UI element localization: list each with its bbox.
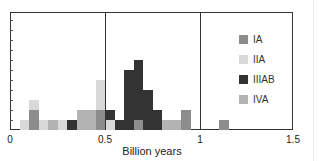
gridline-1 bbox=[200, 12, 201, 130]
x-tick-1-5: 1.5 bbox=[286, 134, 300, 145]
legend-swatch-iia bbox=[239, 55, 248, 64]
y-tick bbox=[10, 120, 13, 121]
bar-iia-0.25 bbox=[58, 120, 68, 130]
legend-item-iia: IIA bbox=[239, 49, 275, 69]
bar-iia-0.45 bbox=[96, 80, 106, 110]
x-tick-0: 0 bbox=[7, 134, 13, 145]
y-tick bbox=[10, 50, 13, 51]
y-tick bbox=[10, 110, 13, 111]
bar-iiiab-0.30 bbox=[67, 120, 77, 130]
bar-iiiab-0.50 bbox=[105, 110, 115, 120]
legend-label: IIIAB bbox=[253, 74, 275, 85]
bar-iia-0.50 bbox=[105, 120, 115, 130]
legend-swatch-iva bbox=[239, 95, 248, 104]
legend-label: IA bbox=[253, 34, 262, 45]
bar-iiiab-0.55 bbox=[115, 120, 125, 130]
bar-iiiab-0.70 bbox=[143, 90, 153, 130]
bar-iva-0.85 bbox=[172, 120, 182, 130]
bar-iiiab-0.65 bbox=[134, 60, 144, 120]
bar-iva-0.40 bbox=[86, 110, 96, 130]
legend-item-ia: IA bbox=[239, 29, 275, 49]
bar-iva-0.20 bbox=[48, 120, 58, 130]
bar-ia-0.45 bbox=[96, 110, 106, 130]
legend-item-iva: IVA bbox=[239, 89, 275, 109]
x-tick-1: 1 bbox=[197, 134, 203, 145]
bar-iia-0.05 bbox=[20, 120, 30, 130]
y-tick bbox=[10, 70, 13, 71]
bar-iiiab-0.75 bbox=[153, 110, 163, 130]
legend-swatch-ia bbox=[239, 35, 248, 44]
bar-iia-0.15 bbox=[39, 120, 49, 130]
x-tick-0-5: 0.5 bbox=[98, 134, 112, 145]
legend: IA IIA IIIAB IVA bbox=[239, 29, 275, 109]
bar-ia-0.65 bbox=[134, 120, 144, 130]
x-axis-label: Billion years bbox=[122, 145, 181, 157]
legend-swatch-iiiab bbox=[239, 75, 248, 84]
bar-iiiab-0.60 bbox=[124, 70, 134, 130]
page-edge bbox=[313, 0, 314, 161]
bar-ia-0.10 bbox=[29, 110, 39, 130]
legend-item-iiiab: IIIAB bbox=[239, 69, 275, 89]
bar-ia-0.90 bbox=[181, 110, 191, 130]
y-tick bbox=[10, 90, 13, 91]
y-tick bbox=[10, 30, 13, 31]
y-tick bbox=[10, 80, 13, 81]
y-tick bbox=[10, 60, 13, 61]
y-tick bbox=[10, 20, 13, 21]
bar-iva-0.35 bbox=[77, 110, 87, 130]
bar-iia-0.10 bbox=[29, 100, 39, 110]
y-tick bbox=[10, 100, 13, 101]
bar-ia-1.10 bbox=[219, 120, 229, 130]
legend-label: IIA bbox=[253, 54, 265, 65]
y-tick bbox=[10, 40, 13, 41]
gridline-0-5 bbox=[105, 12, 106, 130]
bar-iva-0.80 bbox=[162, 120, 172, 130]
legend-label: IVA bbox=[253, 94, 268, 105]
